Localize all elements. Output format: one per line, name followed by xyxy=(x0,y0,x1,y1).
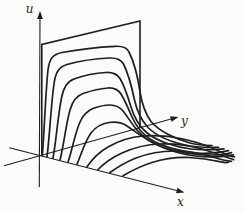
surface-sketch-figure: uyx xyxy=(0,0,245,213)
figure-container: uyx xyxy=(0,0,245,213)
profile-10-curve xyxy=(123,157,229,175)
u-axis-arrowhead-icon xyxy=(37,11,43,19)
profile-6-curve xyxy=(77,122,234,164)
y-axis-label: y xyxy=(180,114,188,128)
x-axis xyxy=(9,148,181,192)
u-axis xyxy=(39,13,40,187)
x-axis-label: x xyxy=(177,195,184,209)
y-axis-arrowhead-icon xyxy=(170,114,179,122)
u-axis-label: u xyxy=(26,2,34,16)
